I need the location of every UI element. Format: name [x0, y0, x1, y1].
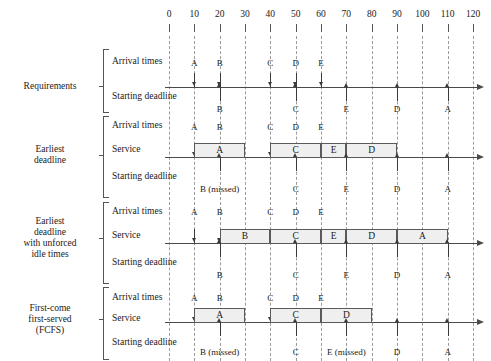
event-label-req-arrival: B [217, 58, 223, 68]
event-label-fcfs-deadline: E (missed) [327, 347, 366, 357]
axis-arrowhead [477, 84, 484, 90]
row-label-req-deadline: Starting deadline [112, 91, 177, 102]
event-arrow-ed-deadline [296, 157, 297, 171]
event-label-ed-arrival: C [267, 122, 273, 132]
service-block-edi-service: A [397, 229, 448, 244]
gridline [372, 36, 373, 361]
schedule-diagram: 0102030405060708090100110120 Requirement… [0, 0, 491, 361]
arrow-up-icon [395, 318, 399, 322]
event-label-fcfs-arrival: C [267, 293, 273, 303]
event-arrow-edi-deadline [296, 243, 297, 257]
event-arrow-ed-deadline [346, 157, 347, 171]
section-title-line: idle times [2, 249, 98, 260]
section-title-line: First-come [2, 303, 98, 314]
event-label-edi-arrival: E [318, 207, 324, 217]
event-label-fcfs-arrival: E [318, 293, 324, 303]
gridline [422, 36, 423, 361]
arrow-up-icon [445, 318, 449, 322]
axis-arrowhead [477, 154, 484, 160]
row-label-fcfs-service: Service [112, 313, 141, 324]
event-label-ed-deadline: D [394, 184, 401, 194]
event-label-edi-deadline: E [344, 270, 350, 280]
row-label-edi-service: Service [112, 230, 141, 241]
axis-tick-mark [296, 24, 297, 32]
event-arrow-edi-deadline [448, 243, 449, 257]
event-label-req-arrival: C [267, 58, 273, 68]
axis-tick-mark [422, 24, 423, 32]
brace-earliest-deadline-unforced-idle [103, 202, 109, 284]
row-label-fcfs-arrival: Arrival times [112, 292, 162, 303]
event-arrow-fcfs-deadline [220, 322, 221, 336]
event-label-edi-arrival: C [267, 207, 273, 217]
axis-tick-mark [473, 24, 474, 32]
arrow-up-icon [344, 239, 348, 243]
arrow-up-icon [344, 318, 348, 322]
section-title-line: first-served [2, 314, 98, 325]
brace-earliest-deadline [103, 116, 109, 198]
event-arrow-ed-deadline [220, 157, 221, 171]
event-label-edi-deadline: B [217, 270, 223, 280]
service-block-edi-service: D [346, 229, 397, 244]
event-arrow-req-arrival [321, 73, 322, 87]
arrow-up-icon [445, 83, 449, 87]
axis-tick-mark [321, 24, 322, 32]
event-label-ed-arrival: A [191, 122, 198, 132]
section-title-line: deadline [2, 155, 98, 166]
brace-requirements [103, 49, 109, 113]
event-label-edi-deadline: C [293, 270, 299, 280]
axis-tick-mark [346, 24, 347, 32]
axis-arrowhead [477, 319, 484, 325]
gridline [245, 36, 246, 361]
event-label-ed-deadline: A [444, 184, 451, 194]
event-label-req-deadline: D [394, 104, 401, 114]
event-arrow-ed-deadline [448, 157, 449, 171]
service-block-ed-service: E [321, 143, 346, 158]
event-arrow-edi-deadline [346, 243, 347, 257]
event-arrow-fcfs-deadline [296, 322, 297, 336]
event-label-ed-arrival: E [318, 122, 324, 132]
event-arrow-req-arrival [194, 73, 195, 87]
event-arrow-req-deadline [296, 87, 297, 101]
event-arrow-edi-deadline [220, 243, 221, 257]
axis-tick-mark [270, 24, 271, 32]
brace-tip [99, 86, 103, 87]
section-title-line: Earliest [2, 144, 98, 155]
event-label-edi-arrival: D [292, 207, 299, 217]
row-label-fcfs-deadline: Starting deadline [112, 337, 177, 348]
event-arrow-req-deadline [346, 87, 347, 101]
arrow-up-icon [445, 239, 449, 243]
event-label-ed-deadline: E [344, 184, 350, 194]
arrow-up-icon [445, 153, 449, 157]
arrow-up-icon [395, 153, 399, 157]
event-label-req-arrival: D [292, 58, 299, 68]
gridline [169, 36, 170, 361]
arrow-up-icon [344, 83, 348, 87]
event-label-req-deadline: A [444, 104, 451, 114]
event-label-fcfs-arrival: A [191, 293, 198, 303]
axis-tick-mark [220, 24, 221, 32]
arrow-up-icon [217, 239, 221, 243]
axis-tick-mark [194, 24, 195, 32]
axis-tick-mark [372, 24, 373, 32]
section-title-earliest-deadline: Earliestdeadline [2, 144, 98, 166]
event-label-edi-arrival: A [191, 207, 198, 217]
event-label-fcfs-deadline: C [293, 347, 299, 357]
section-title-line: with unforced [2, 238, 98, 249]
row-label-edi-deadline: Starting deadline [112, 257, 177, 268]
event-label-ed-deadline: B (missed) [200, 184, 239, 194]
event-label-req-arrival: A [191, 58, 198, 68]
axis-tick-mark [397, 24, 398, 32]
event-label-fcfs-deadline: D [394, 347, 401, 357]
service-block-edi-service: E [321, 229, 346, 244]
gridline [473, 36, 474, 361]
requirements-axis [165, 87, 477, 88]
event-label-req-deadline: B [217, 104, 223, 114]
event-label-edi-deadline: D [394, 270, 401, 280]
event-label-fcfs-deadline: B (missed) [200, 347, 239, 357]
arrow-up-icon [293, 318, 297, 322]
event-arrow-fcfs-deadline [448, 322, 449, 336]
arrow-up-icon [217, 153, 221, 157]
arrow-up-icon [395, 239, 399, 243]
section-title-earliest-deadline-unforced-idle: Earliestdeadlinewith unforcedidle times [2, 216, 98, 260]
arrow-up-icon [217, 318, 221, 322]
